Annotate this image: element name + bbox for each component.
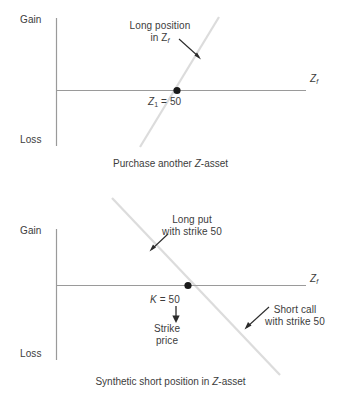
y-axis-loss-label: Loss xyxy=(20,134,42,146)
x-axis-zf-label: Zf xyxy=(310,73,318,88)
top-panel-caption: Purchase another Z-asset xyxy=(0,158,341,169)
strike-point-symbol: K xyxy=(150,294,157,305)
bottom-caption-italic-z: Z xyxy=(212,376,218,387)
strike-price-note: Strike price xyxy=(142,323,192,347)
annotation-short-call: Short call with strike 50 xyxy=(253,304,337,328)
strike-point-value: = 50 xyxy=(157,294,180,305)
annotation-long-position: Long position in Zf xyxy=(112,20,208,47)
top-caption-italic-z: Z xyxy=(195,158,201,169)
breakeven-point-value: = 50 xyxy=(158,96,181,107)
panel-purchase-z-asset: Gain Loss Zf Long position in Zf Z1 = 50… xyxy=(0,0,341,203)
annotation-short-call-line1: Short call xyxy=(274,304,317,315)
strike-point-marker xyxy=(184,282,191,289)
annotation-long-position-line2: in Z xyxy=(150,32,167,43)
strike-price-note-line2: price xyxy=(156,335,178,346)
strike-price-arrow-icon xyxy=(172,306,179,323)
x-axis-zf-subscript: f xyxy=(316,278,318,285)
annotation-long-position-subscript: f xyxy=(168,37,170,44)
strike-point-label: K = 50 xyxy=(150,294,180,306)
annotation-long-put: Long put with strike 50 xyxy=(140,214,244,238)
annotation-long-put-line2: with strike 50 xyxy=(162,226,222,237)
y-axis-gain-label: Gain xyxy=(20,225,42,237)
panel-synthetic-short-position: Gain Loss Zf Long put with strike 50 Sho… xyxy=(0,196,341,406)
y-axis-loss-label: Loss xyxy=(20,348,42,360)
annotation-long-position-line1: Long position xyxy=(130,20,191,31)
breakeven-point-label: Z1 = 50 xyxy=(148,96,181,111)
bottom-panel-caption: Synthetic short position in Z-asset xyxy=(0,376,341,387)
annotation-short-call-line2: with strike 50 xyxy=(265,316,325,327)
x-axis-zf-label: Zf xyxy=(310,273,318,288)
y-axis-gain-label: Gain xyxy=(20,14,42,26)
breakeven-point-marker xyxy=(173,87,180,94)
strike-price-note-line1: Strike xyxy=(154,323,180,334)
x-axis-zf-subscript: f xyxy=(316,78,318,85)
annotation-long-put-line1: Long put xyxy=(172,214,212,225)
